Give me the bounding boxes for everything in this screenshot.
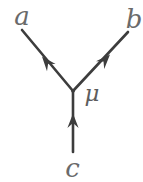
edge-line-b <box>73 32 128 91</box>
vertex-diagram: abcμ <box>0 0 143 182</box>
edge-label-b: b <box>126 4 143 34</box>
edge-label-a: a <box>14 1 30 31</box>
diagram-canvas: abcμ <box>0 0 143 182</box>
vertex-dot <box>71 89 75 93</box>
edge-arrow-b <box>96 51 114 69</box>
vertex-label-mu: μ <box>85 80 100 106</box>
edge-label-c: c <box>65 153 80 182</box>
